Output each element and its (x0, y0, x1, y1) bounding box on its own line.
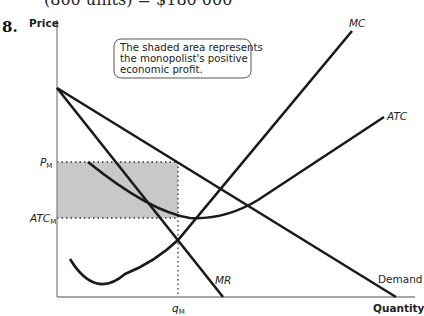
monopoly-profit-chart: The shaded area represents the monopolis… (0, 0, 424, 316)
price-axis-label: Price (29, 17, 59, 29)
callout-line-2: the monopolist's positive (120, 53, 248, 64)
demand-label: Demand (378, 273, 423, 285)
atcm-label: ATCM (29, 212, 56, 226)
atc-label: ATC (386, 110, 408, 122)
pm-label: PM (40, 156, 52, 170)
callout-line-1: The shaded area represents (119, 42, 263, 53)
callout-line-3: economic profit. (120, 64, 203, 75)
mc-label: MC (349, 17, 366, 29)
mr-label: MR (215, 274, 231, 286)
qm-label: qM (172, 302, 185, 316)
quantity-axis-label: Quantity (373, 302, 424, 314)
